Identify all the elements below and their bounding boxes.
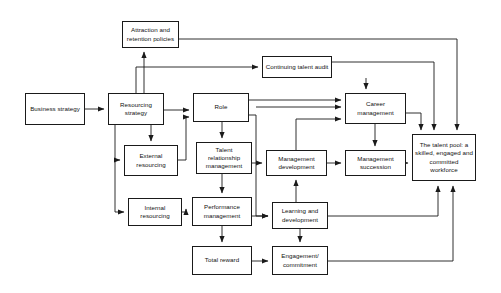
node-external-resourcing[interactable]: External resourcing [124, 145, 178, 176]
node-label: Continuing talent audit [265, 63, 329, 71]
node-label: Management development [269, 155, 324, 171]
node-label: Management succession [348, 155, 403, 171]
node-label: Role [196, 103, 246, 111]
connector-engagement-to-talent-pool [328, 186, 453, 261]
node-label: Career management [348, 100, 403, 116]
node-label: External resourcing [127, 152, 175, 168]
node-label: Business strategy [28, 105, 82, 113]
node-engagement-commitment[interactable]: Engagement/ commitment [272, 246, 328, 275]
connector-resourcing-strategy-to-continuing-talent-audit [136, 67, 258, 93]
node-performance-management[interactable]: Performance management [192, 197, 252, 226]
node-role[interactable]: Role [193, 93, 249, 122]
node-learning-and-development[interactable]: Learning and development [272, 202, 328, 229]
node-resourcing-strategy[interactable]: Resourcing strategy [108, 93, 164, 125]
flow-diagram: Attraction and retention policiesBusines… [0, 0, 501, 293]
node-management-succession[interactable]: Management succession [345, 150, 406, 176]
node-continuing-talent-audit[interactable]: Continuing talent audit [262, 56, 332, 78]
node-internal-resourcing[interactable]: Internal resourcing [128, 198, 182, 226]
node-label: Attraction and retention policies [125, 26, 176, 42]
node-career-management[interactable]: Career management [345, 93, 406, 124]
node-label: Total reward [195, 256, 249, 264]
node-talent-relationship-management[interactable]: Talent relationship management [196, 142, 252, 174]
node-label: Internal resourcing [131, 204, 179, 220]
node-total-reward[interactable]: Total reward [192, 246, 252, 275]
connector-learning-and-development-to-talent-pool [328, 186, 438, 216]
connector-career-management-to-talent-pool [406, 113, 421, 130]
node-label: Talent relationship management [199, 146, 249, 171]
connector-resourcing-strategy-left-down-to-external [115, 125, 120, 160]
node-label: The talent pool: a skilled, engaged and … [415, 141, 473, 174]
node-business-strategy[interactable]: Business strategy [25, 93, 85, 125]
connector-internal-resourcing-to-performance-management [182, 209, 186, 212]
node-label: Learning and development [275, 207, 325, 223]
connector-external-resourcing-to-role-input [178, 117, 189, 160]
node-talent-pool[interactable]: The talent pool: a skilled, engaged and … [412, 134, 476, 181]
connector-management-development-to-career-management [296, 119, 341, 150]
node-management-development[interactable]: Management development [266, 150, 327, 176]
node-label: Resourcing strategy [111, 101, 161, 117]
node-label: Performance management [195, 203, 249, 219]
node-label: Engagement/ commitment [275, 252, 325, 268]
connector-resourcing-strategy-left-down-to-internal [115, 160, 124, 212]
node-attraction-retention-policies[interactable]: Attraction and retention policies [122, 21, 179, 48]
